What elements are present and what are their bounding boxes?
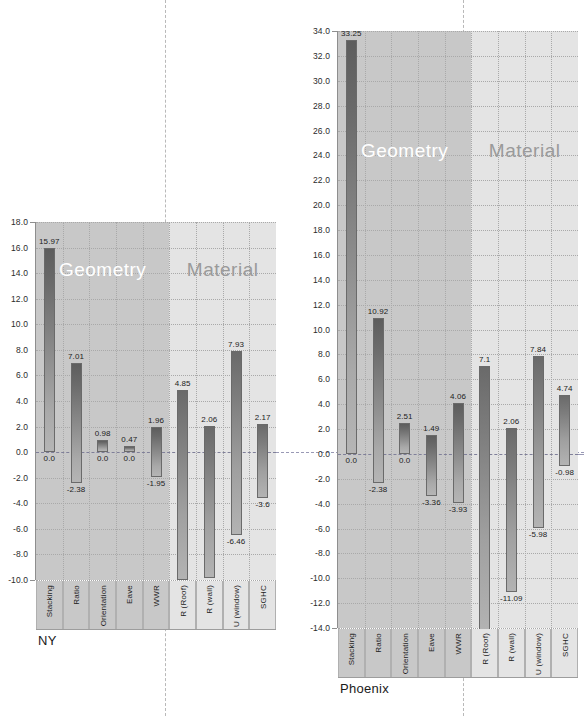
y-axis-tick-label: -4.0	[315, 499, 330, 509]
horizontal-gridline	[338, 553, 578, 554]
horizontal-gridline	[338, 578, 578, 579]
y-axis-tick-label: 26.0	[313, 126, 330, 136]
y-axis-tick-label: 18.0	[313, 225, 330, 235]
y-axis-tick-label: -8.0	[315, 548, 330, 558]
category-strip-underline	[338, 677, 578, 678]
category-label: Eave	[427, 633, 436, 652]
y-axis-tick-label: -12.0	[310, 598, 330, 608]
category-label: SGHC	[560, 633, 569, 657]
y-axis-tick-label: -6.0	[315, 524, 330, 534]
bar-wwr	[453, 403, 464, 502]
bar-value-label-low: -11.09	[500, 594, 523, 603]
horizontal-gridline	[338, 56, 578, 57]
bar-eave	[426, 435, 437, 495]
bar-value-label-high: 2.06	[503, 417, 519, 426]
zero-baseline-extension	[578, 454, 584, 455]
y-axis-tick-label: -10.0	[310, 573, 330, 583]
horizontal-gridline	[338, 205, 578, 206]
y-axis-tick-label: 6.0	[318, 374, 330, 384]
bar-sghc	[559, 395, 570, 466]
y-axis-tick-label: 12.0	[313, 300, 330, 310]
phoenix-chart: 34.032.030.028.026.024.022.020.018.016.0…	[0, 0, 584, 716]
y-axis-cap-top	[332, 31, 337, 32]
bar-value-label-low: -5.98	[529, 530, 548, 539]
y-axis-tick-label: 34.0	[313, 26, 330, 36]
bar-orientation	[399, 423, 410, 454]
bar-value-label-low: -0.98	[555, 468, 574, 477]
y-axis-tick-label: 20.0	[313, 200, 330, 210]
horizontal-gridline	[338, 180, 578, 181]
bar-value-label-high: 2.51	[397, 412, 413, 421]
bar-r-wall	[506, 428, 517, 592]
bar-r-roof	[479, 366, 490, 634]
bar-value-label-low: -3.36	[422, 498, 441, 507]
y-axis-tick-label: 0.0	[318, 449, 330, 459]
bar-value-label-low: -2.38	[369, 485, 388, 494]
y-axis-tick-label: -14.0	[310, 623, 330, 633]
y-axis-tick-label: 10.0	[313, 325, 330, 335]
y-axis-tick-label: 32.0	[313, 51, 330, 61]
y-axis-tick-label: 2.0	[318, 424, 330, 434]
y-axis-tick-label: 4.0	[318, 399, 330, 409]
bar-value-label-high: 7.84	[530, 345, 546, 354]
bar-value-label-low: 0.0	[346, 456, 357, 465]
y-axis-tick-label: 16.0	[313, 250, 330, 260]
bar-value-label-high: 10.92	[368, 307, 389, 316]
bar-value-label-high: 33.25	[341, 29, 362, 38]
bar-u-window	[533, 356, 544, 528]
band-label-material: Material	[489, 140, 561, 162]
bar-value-label-low: -3.93	[449, 505, 468, 514]
horizontal-gridline	[338, 280, 578, 281]
bar-value-label-high: 1.49	[423, 424, 439, 433]
y-axis-tick-label: 8.0	[318, 349, 330, 359]
horizontal-gridline	[338, 255, 578, 256]
y-axis-tick-label: -2.0	[315, 474, 330, 484]
horizontal-gridline	[338, 31, 578, 32]
y-axis-tick-label: 28.0	[313, 101, 330, 111]
category-label: Stacking	[347, 633, 356, 665]
y-axis-tick-label: 22.0	[313, 175, 330, 185]
horizontal-gridline	[338, 106, 578, 107]
category-label: R (Roof)	[480, 633, 489, 665]
horizontal-gridline	[338, 131, 578, 132]
y-axis-tick-label: 14.0	[313, 275, 330, 285]
bar-value-label-high: 7.1	[479, 355, 490, 364]
bar-value-label-high: 4.74	[557, 384, 573, 393]
category-label: R (wall)	[507, 633, 516, 662]
y-axis-cap-bottom	[332, 628, 337, 629]
band-label-geometry: Geometry	[361, 140, 448, 162]
y-axis-tick-label: 30.0	[313, 76, 330, 86]
horizontal-gridline	[338, 230, 578, 231]
horizontal-gridline	[338, 603, 578, 604]
city-label-phoenix: Phoenix	[340, 681, 389, 696]
bar-value-label-high: 4.06	[450, 392, 466, 401]
category-label: Ratio	[374, 633, 383, 653]
category-label: Orientation	[400, 633, 409, 674]
horizontal-gridline	[338, 305, 578, 306]
category-label: U (window)	[534, 633, 543, 675]
bar-value-label-low: 0.0	[399, 456, 410, 465]
bar-stacking	[346, 40, 357, 454]
y-axis-tick-label: 24.0	[313, 150, 330, 160]
bar-ratio	[373, 318, 384, 483]
category-label: WWR	[454, 633, 463, 654]
horizontal-gridline	[338, 81, 578, 82]
